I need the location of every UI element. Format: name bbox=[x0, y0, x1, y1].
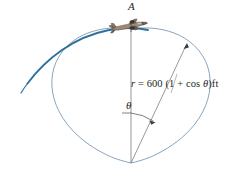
aircraft-trajectory bbox=[28, 28, 149, 83]
equation-expression: (1 + cos bbox=[163, 78, 203, 89]
equation-label: r = 600 (1 + cos θ)ft bbox=[131, 79, 218, 90]
radial-line bbox=[131, 46, 186, 164]
radial-line-group bbox=[131, 43, 189, 163]
angle-label-theta: θ bbox=[126, 100, 131, 111]
radial-arrow-icon bbox=[184, 43, 189, 49]
equation-units: ft bbox=[212, 78, 219, 89]
figure-canvas bbox=[0, 0, 239, 191]
angle-arc bbox=[131, 113, 153, 121]
cardioid-figure: A θ r = 600 (1 + cos θ)ft bbox=[0, 0, 239, 191]
point-label-a: A bbox=[128, 1, 135, 12]
equation-equals: = bbox=[135, 78, 146, 89]
aircraft-trajectory-tail bbox=[21, 84, 28, 94]
aircraft-nose bbox=[142, 21, 148, 25]
angle-arc-group bbox=[122, 113, 156, 125]
equation-coefficient: 600 bbox=[147, 78, 163, 89]
aircraft-trajectory-group bbox=[21, 28, 148, 93]
jet-aircraft-icon bbox=[108, 17, 148, 34]
